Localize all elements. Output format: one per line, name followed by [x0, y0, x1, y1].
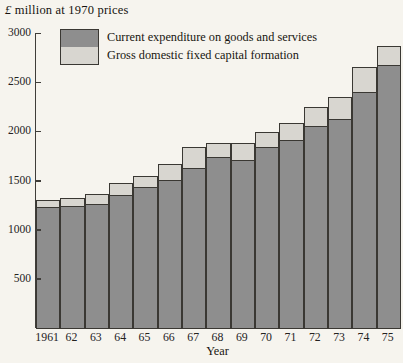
figure: £ million at 1970 prices Current expendi… — [0, 0, 403, 363]
bar-67 — [182, 33, 206, 328]
segment-capital-formation-72 — [304, 107, 328, 127]
bar-65 — [133, 33, 157, 328]
x-tick-label-71: 71 — [278, 330, 302, 345]
x-tick-label-68: 68 — [205, 330, 229, 345]
y-axis-label-1000: 1000 — [0, 223, 31, 235]
segment-capital-formation-74 — [352, 67, 376, 93]
bar-71 — [279, 33, 303, 328]
bar-66 — [158, 33, 182, 328]
segment-current-expenditure-73 — [328, 119, 352, 329]
segment-current-expenditure-68 — [206, 157, 230, 329]
x-tick-label-64: 64 — [108, 330, 132, 345]
x-tick-label-69: 69 — [230, 330, 254, 345]
x-tick-label-67: 67 — [181, 330, 205, 345]
legend-swatch-capital-formation — [61, 47, 98, 64]
x-tick-label-73: 73 — [327, 330, 351, 345]
x-tick-label-72: 72 — [303, 330, 327, 345]
segment-capital-formation-71 — [279, 123, 303, 142]
segment-current-expenditure-63 — [85, 204, 109, 329]
legend-label-capital-formation: Gross domestic fixed capital formation — [107, 47, 317, 65]
x-tick-label-63: 63 — [84, 330, 108, 345]
x-tick-label-1961: 1961 — [35, 330, 59, 345]
bar-73 — [328, 33, 352, 328]
segment-capital-formation-66 — [158, 164, 182, 181]
bars-container — [36, 33, 401, 328]
x-tick-label-70: 70 — [254, 330, 278, 345]
y-tick-2000 — [36, 131, 41, 133]
segment-current-expenditure-75 — [377, 65, 401, 329]
legend-label-current-expenditure: Current expenditure on goods and service… — [107, 29, 317, 47]
segment-capital-formation-68 — [206, 143, 230, 158]
bar-64 — [109, 33, 133, 328]
y-tick-2500 — [36, 82, 41, 84]
figure-title: £ million at 1970 prices — [5, 3, 129, 18]
segment-current-expenditure-67 — [182, 168, 206, 329]
x-tick-label-75: 75 — [376, 330, 400, 345]
y-axis-label-2500: 2500 — [0, 75, 31, 87]
y-axis-label-500: 500 — [0, 272, 31, 284]
y-axis-label-3000: 3000 — [0, 26, 31, 38]
y-axis-label-2000: 2000 — [0, 124, 31, 136]
segment-current-expenditure-74 — [352, 92, 376, 329]
bar-75 — [377, 33, 401, 328]
bar-62 — [60, 33, 84, 328]
segment-capital-formation-69 — [231, 143, 255, 161]
bar-69 — [231, 33, 255, 328]
segment-current-expenditure-62 — [60, 206, 84, 329]
segment-current-expenditure-70 — [255, 147, 279, 329]
legend-swatch — [60, 29, 99, 65]
y-axis-label-1500: 1500 — [0, 174, 31, 186]
legend-labels: Current expenditure on goods and service… — [107, 29, 317, 64]
segment-current-expenditure-1961 — [36, 207, 60, 329]
legend-swatch-current-expenditure — [61, 30, 98, 47]
segment-capital-formation-73 — [328, 97, 352, 120]
segment-capital-formation-70 — [255, 132, 279, 148]
x-tick-label-62: 62 — [59, 330, 83, 345]
y-tick-1500 — [36, 180, 41, 182]
bar-68 — [206, 33, 230, 328]
bar-72 — [304, 33, 328, 328]
segment-current-expenditure-65 — [133, 187, 157, 329]
x-axis-labels: 19616263646566676869707172737475 — [35, 330, 400, 345]
segment-capital-formation-75 — [377, 46, 401, 67]
x-tick-label-74: 74 — [351, 330, 375, 345]
segment-current-expenditure-64 — [109, 195, 133, 329]
x-tick-label-65: 65 — [132, 330, 156, 345]
x-tick-label-66: 66 — [157, 330, 181, 345]
segment-current-expenditure-72 — [304, 126, 328, 329]
bar-74 — [352, 33, 376, 328]
plot-area: Current expenditure on goods and service… — [35, 33, 401, 328]
legend: Current expenditure on goods and service… — [60, 29, 317, 65]
bar-63 — [85, 33, 109, 328]
bar-70 — [255, 33, 279, 328]
segment-current-expenditure-69 — [231, 160, 255, 329]
segment-current-expenditure-66 — [158, 180, 182, 329]
segment-current-expenditure-71 — [279, 140, 303, 329]
x-axis-title: Year — [35, 344, 400, 359]
segment-capital-formation-67 — [182, 147, 206, 169]
y-tick-1000 — [36, 229, 41, 231]
y-tick-500 — [36, 278, 41, 280]
y-tick-3000 — [36, 33, 41, 35]
